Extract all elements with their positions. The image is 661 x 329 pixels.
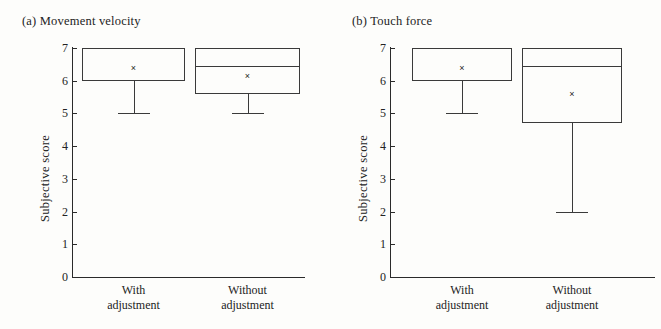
y-axis-tick-label: 5 [366, 107, 386, 119]
boxplot-whisker-cap-lower [446, 113, 478, 114]
boxplot-whisker-lower [572, 123, 573, 211]
category-label-line: adjustment [193, 298, 303, 313]
boxplot-median-line [522, 66, 622, 67]
y-axis-tick-label: 6 [48, 75, 68, 87]
y-axis-tick [391, 48, 395, 49]
boxplot-whisker-lower [248, 94, 249, 114]
x-axis [72, 277, 305, 278]
category-label-line: Without [193, 283, 303, 298]
x-axis-category-label: Withoutadjustment [193, 283, 303, 313]
y-axis-tick-label: 7 [48, 42, 68, 54]
y-axis-tick [73, 179, 77, 180]
y-axis-tick [391, 244, 395, 245]
plot-area-a: 01234567Subjective score×Withadjustment×… [0, 0, 330, 329]
y-axis-tick-label: 0 [48, 271, 68, 283]
y-axis-tick [73, 146, 77, 147]
y-axis-tick [73, 48, 77, 49]
y-axis-tick [73, 277, 77, 278]
y-axis-tick-label: 6 [366, 75, 386, 87]
boxplot-mean-marker: × [245, 71, 250, 80]
y-axis-label: Subjective score [38, 135, 53, 222]
y-axis-tick-label: 7 [366, 42, 386, 54]
x-axis-category-label: Withadjustment [79, 283, 189, 313]
panel-movement-velocity: (a) Movement velocity 01234567Subjective… [0, 0, 330, 329]
y-axis-tick [73, 212, 77, 213]
panel-touch-force: (b) Touch force 01234567Subjective score… [330, 0, 661, 329]
category-label-line: With [79, 283, 189, 298]
category-label-line: adjustment [517, 298, 627, 313]
y-axis-tick [391, 179, 395, 180]
y-axis-tick [391, 212, 395, 213]
boxplot-mean-marker: × [569, 89, 574, 98]
boxplot-whisker-cap-lower [232, 113, 264, 114]
boxplot-mean-marker: × [459, 63, 464, 72]
y-axis-tick [391, 81, 395, 82]
category-label-line: adjustment [407, 298, 517, 313]
y-axis-tick-label: 0 [366, 271, 386, 283]
y-axis-tick [73, 113, 77, 114]
boxplot-mean-marker: × [131, 63, 136, 72]
figure-boxplots: (a) Movement velocity 01234567Subjective… [0, 0, 661, 329]
category-label-line: Without [517, 283, 627, 298]
x-axis-category-label: Withoutadjustment [517, 283, 627, 313]
x-axis [390, 277, 655, 278]
category-label-line: adjustment [79, 298, 189, 313]
plot-area-b: 01234567Subjective score×Withadjustment×… [330, 0, 661, 329]
boxplot-whisker-cap-lower [118, 113, 150, 114]
y-axis-label: Subjective score [356, 135, 371, 222]
y-axis-tick-label: 5 [48, 107, 68, 119]
y-axis-tick [73, 81, 77, 82]
x-axis-category-label: Withadjustment [407, 283, 517, 313]
y-axis-tick-label: 1 [366, 238, 386, 250]
boxplot-whisker-lower [462, 81, 463, 114]
y-axis-tick [391, 146, 395, 147]
y-axis-tick [391, 113, 395, 114]
category-label-line: With [407, 283, 517, 298]
boxplot-box [522, 48, 622, 123]
y-axis-tick [73, 244, 77, 245]
boxplot-median-line [195, 66, 300, 67]
boxplot-whisker-lower [134, 81, 135, 114]
boxplot-whisker-cap-lower [556, 212, 588, 213]
y-axis-tick [391, 277, 395, 278]
y-axis-tick-label: 1 [48, 238, 68, 250]
